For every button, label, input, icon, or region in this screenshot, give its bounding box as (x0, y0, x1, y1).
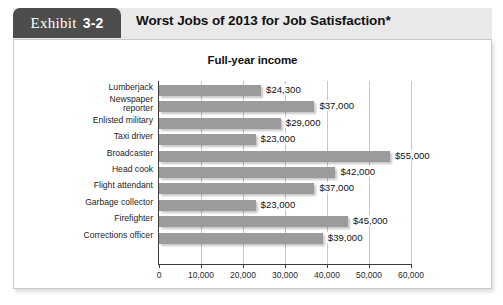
bar-value-label: $45,000 (352, 215, 389, 226)
exhibit-tab: Exhibit 3-2 (13, 8, 121, 38)
chart-panel: Full-year income 010,00020,00030,00040,0… (13, 39, 492, 289)
exhibit-tab-word: Exhibit (30, 15, 76, 32)
bar (159, 134, 256, 145)
bar-row: Garbage collector$23,000 (159, 198, 411, 214)
x-axis-tick (285, 264, 286, 268)
bar-row: Newspaper reporter$37,000 (159, 99, 411, 115)
bar (159, 151, 390, 162)
category-label: Firefighter (13, 214, 153, 223)
x-axis-tick-label: 40,000 (314, 270, 340, 280)
x-axis-tick (327, 264, 328, 268)
bar-value-label: $23,000 (260, 199, 297, 210)
bar (159, 200, 256, 211)
bar (159, 85, 261, 96)
category-label: Corrections officer (13, 231, 153, 240)
x-axis-tick (159, 264, 160, 268)
bar (159, 216, 348, 227)
x-axis-tick (369, 264, 370, 268)
category-label: Lumberjack (13, 83, 153, 92)
x-axis-tick-label: 20,000 (230, 270, 256, 280)
bar-row: Firefighter$45,000 (159, 214, 411, 230)
category-label: Broadcaster (13, 149, 153, 158)
x-axis-tick-label: 30,000 (272, 270, 298, 280)
bar-value-label: $37,000 (318, 182, 355, 193)
exhibit-tab-number: 3-2 (83, 15, 104, 31)
bar-chart-plot-area: 010,00020,00030,00040,00050,00060,000 Lu… (159, 83, 411, 263)
category-label: Enlisted military (13, 116, 153, 125)
bar-value-label: $24,300 (265, 84, 302, 95)
bar-row: Enlisted military$29,000 (159, 116, 411, 132)
category-label: Head cook (13, 165, 153, 174)
bar-row: Lumberjack$24,300 (159, 83, 411, 99)
bar-value-label: $37,000 (318, 100, 355, 111)
category-label: Newspaper reporter (13, 95, 153, 112)
x-axis-tick (411, 264, 412, 268)
x-axis-tick-label: 60,000 (398, 270, 424, 280)
bar-value-label: $39,000 (327, 232, 364, 243)
exhibit-title: Worst Jobs of 2013 for Job Satisfaction* (136, 13, 391, 28)
category-label: Flight attendant (13, 181, 153, 190)
x-axis-tick-label: 50,000 (356, 270, 382, 280)
bar-value-label: $55,000 (394, 150, 431, 161)
bar-row: Corrections officer$39,000 (159, 231, 411, 247)
bar-value-label: $42,000 (339, 166, 376, 177)
category-label: Taxi driver (13, 132, 153, 141)
bar-value-label: $29,000 (285, 117, 322, 128)
bar (159, 101, 314, 112)
x-axis-tick (201, 264, 202, 268)
chart-title: Full-year income (14, 54, 491, 66)
bar (159, 233, 323, 244)
bar-row: Taxi driver$23,000 (159, 132, 411, 148)
bar (159, 118, 281, 129)
bar (159, 167, 335, 178)
bar-row: Broadcaster$55,000 (159, 149, 411, 165)
x-axis-tick-label: 10,000 (188, 270, 214, 280)
category-label: Garbage collector (13, 198, 153, 207)
gridline (411, 81, 412, 264)
bar-row: Flight attendant$37,000 (159, 181, 411, 197)
bar-row: Head cook$42,000 (159, 165, 411, 181)
bar-value-label: $23,000 (260, 133, 297, 144)
bar (159, 183, 314, 194)
x-axis-tick-label: 0 (157, 270, 162, 280)
x-axis-tick (243, 264, 244, 268)
